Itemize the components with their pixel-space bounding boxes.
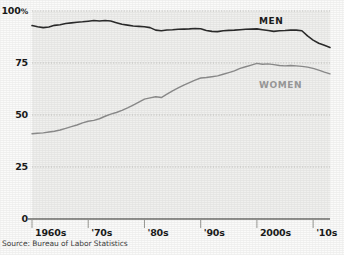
y-tick-label-50: 50 [0,110,28,120]
y-tick-label-25: 25 [0,162,28,172]
series-label-men: MEN [259,17,283,26]
chart-canvas [0,0,344,255]
x-tick-label-1960: 1960s [35,228,66,238]
x-tick-label-2010: '10s [316,228,337,238]
series-lines [32,21,330,134]
x-tick-label-2000: 2000s [260,228,291,238]
source-caption: Source: Bureau of Labor Statistics [2,240,128,248]
y-tick-label-75: 75 [0,58,28,68]
y-tick-label-100: 100% [0,6,28,16]
chart-figure: 0255075100% 1960s'70s'80s'90s2000s'10s M… [0,0,344,255]
y-tick-label-0: 0 [0,214,28,224]
series-label-women: WOMEN [259,81,302,90]
x-tick-label-1970: '70s [91,228,112,238]
x-tick-label-1980: '80s [147,228,168,238]
series-line-men [32,21,330,48]
x-tick-label-1990: '90s [204,228,225,238]
y-axis-percent-sign: % [21,7,28,16]
series-line-women [32,63,330,133]
